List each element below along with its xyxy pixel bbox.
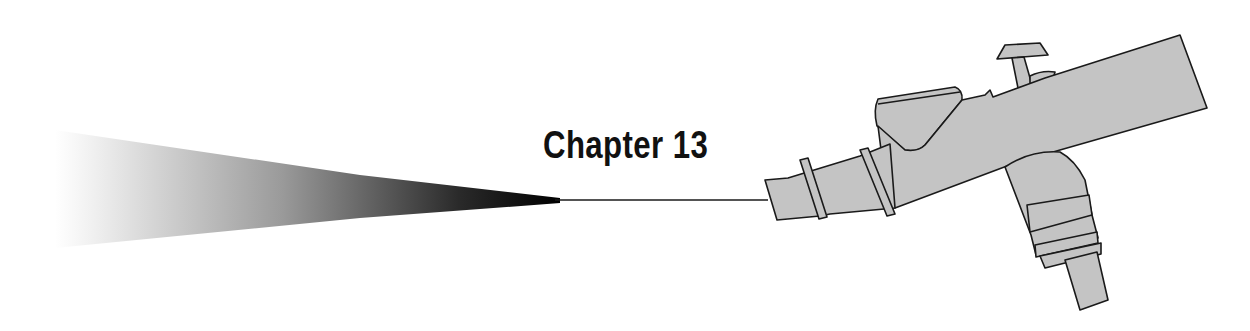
chapter-opener-page: Chapter 13 <box>0 0 1250 331</box>
airbrush-icon <box>765 35 1207 310</box>
chapter-title: Chapter 13 <box>543 126 708 164</box>
